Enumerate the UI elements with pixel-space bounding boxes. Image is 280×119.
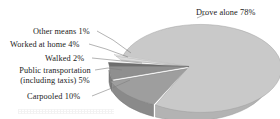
slice-label-worked-at-home: Worked at home 4% [10, 40, 79, 50]
slice-label-carpooled: Carpooled 10% [27, 92, 80, 102]
leader-line-other-means [97, 31, 131, 53]
pie-chart: Drove alone 78% Other means 1% Worked at… [0, 0, 280, 119]
slice-label-walked: Walked 2% [45, 54, 84, 64]
slice-label-public-transportation: Public transportation (including taxis) … [6, 66, 104, 85]
slice-label-other-means: Other means 1% [33, 27, 90, 37]
slice-label-public-transportation-line2: (including taxis) 5% [20, 76, 90, 85]
leader-line-worked-at-home [89, 44, 128, 57]
slice-label-drove-alone: Drove alone 78% [196, 8, 256, 18]
slice-label-public-transportation-line1: Public transportation [19, 66, 90, 75]
